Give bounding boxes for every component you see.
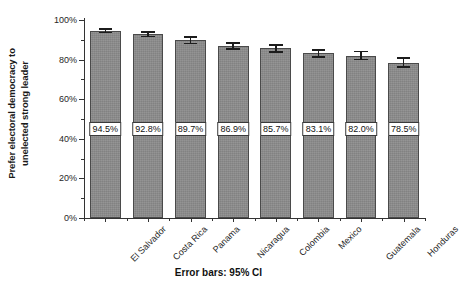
x-axis-category-label: Panama: [210, 224, 241, 255]
error-bar-cap-upper: [226, 42, 240, 44]
chart-caption: Error bars: 95% CI: [0, 267, 437, 278]
y-axis-tick-label: 20%: [59, 173, 77, 183]
x-axis-minor-tick: [169, 218, 170, 221]
x-axis-minor-tick: [340, 218, 341, 221]
y-axis-tick-label: 100%: [54, 15, 77, 25]
bar: [388, 63, 419, 218]
y-axis-minor-tick: [81, 119, 84, 120]
x-axis-minor-tick: [425, 218, 426, 221]
bar: [346, 56, 377, 218]
bar-value-label: 92.8%: [132, 122, 164, 136]
x-axis-category-label: Guatemala: [384, 224, 422, 262]
y-axis-tick: [79, 99, 84, 100]
y-axis-tick: [79, 60, 84, 61]
x-axis-tick: [318, 218, 319, 222]
x-axis-minor-tick: [84, 218, 85, 221]
x-axis-minor-tick: [255, 218, 256, 221]
bar-value-label: 94.5%: [90, 122, 122, 136]
y-axis-tick-label: 80%: [59, 55, 77, 65]
x-axis-category-label: Honduras: [425, 224, 460, 259]
error-bar-cap-upper: [184, 36, 198, 38]
x-axis-tick: [233, 218, 234, 222]
error-bar-cap-upper: [99, 28, 113, 30]
x-axis-tick: [148, 218, 149, 222]
error-bar-cap-upper: [397, 57, 411, 59]
y-axis-tick: [79, 20, 84, 21]
y-axis-title: Prefer electoral democracy to unelected …: [0, 0, 36, 226]
y-axis-minor-tick: [81, 198, 84, 199]
x-axis-minor-tick: [212, 218, 213, 221]
plot-area: 0%20%40%60%80%100%94.5%92.8%89.7%86.9%85…: [84, 20, 425, 218]
bar-value-label: 86.9%: [217, 122, 249, 136]
error-bar-cap-upper: [354, 51, 368, 53]
x-axis-category-label: Costa Rica: [171, 224, 209, 262]
y-axis-tick: [79, 178, 84, 179]
y-axis-minor-tick: [81, 40, 84, 41]
y-axis-title-line-2: unelected strong leader: [18, 48, 31, 179]
bar-value-label: 85.7%: [260, 122, 292, 136]
y-axis-tick-label: 0%: [64, 213, 77, 223]
x-axis-category-label: Colombia: [297, 224, 331, 258]
x-axis-minor-tick: [297, 218, 298, 221]
x-axis-tick: [191, 218, 192, 222]
y-axis-tick-label: 40%: [59, 134, 77, 144]
y-axis-title-line-1: Prefer electoral democracy to: [6, 48, 19, 179]
x-axis-category-label: Mexico: [337, 224, 364, 251]
error-bar-cap-upper: [141, 31, 155, 33]
x-axis-tick: [105, 218, 106, 222]
x-axis-tick: [276, 218, 277, 222]
y-axis-minor-tick: [81, 79, 84, 80]
x-axis-minor-tick: [382, 218, 383, 221]
y-axis-minor-tick: [81, 159, 84, 160]
x-axis-tick: [361, 218, 362, 222]
error-bar-cap-upper: [312, 49, 326, 51]
y-axis-tick-label: 60%: [59, 94, 77, 104]
x-axis-tick: [404, 218, 405, 222]
bar-value-label: 89.7%: [175, 122, 207, 136]
bar-value-label: 78.5%: [388, 122, 420, 136]
x-axis-category-label: Nicaragua: [255, 224, 291, 260]
x-axis-category-label: El Salvador: [129, 224, 169, 264]
x-axis-minor-tick: [127, 218, 128, 221]
bar-value-label: 82.0%: [345, 122, 377, 136]
error-bar-cap-upper: [269, 44, 283, 46]
y-axis-tick: [79, 139, 84, 140]
bar-value-label: 83.1%: [303, 122, 335, 136]
